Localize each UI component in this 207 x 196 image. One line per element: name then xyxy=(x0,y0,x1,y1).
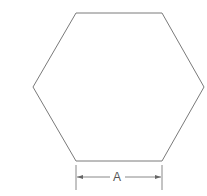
hexagon-shape xyxy=(33,13,204,161)
dimension-label: A xyxy=(113,171,121,183)
arrowhead-right-icon xyxy=(155,175,161,179)
hexagon-diagram xyxy=(0,0,207,196)
arrowhead-left-icon xyxy=(77,175,83,179)
